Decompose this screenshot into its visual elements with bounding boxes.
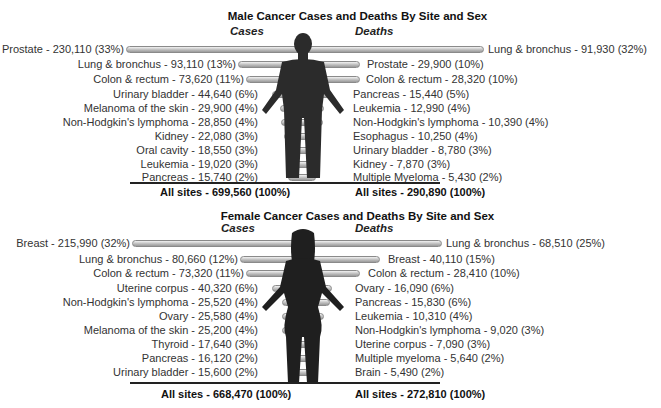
female-death-label: Multiple myeloma - 5,640 (2%) [355, 352, 504, 364]
male-case-label: Oral cavity - 18,550 (3%) [136, 144, 258, 156]
female-deaths-header: Deaths [355, 222, 393, 234]
male-panel: Male Cancer Cases and Deaths By Site and… [0, 0, 661, 200]
female-case-label: Lung & bronchus - 80,660 (12%) [79, 253, 238, 265]
male-deaths-total: All sites - 290,890 (100%) [355, 186, 485, 198]
female-cases-header: Cases [221, 222, 255, 234]
female-case-label: Thyroid - 17,640 (3%) [152, 338, 258, 350]
male-silhouette-icon [258, 30, 348, 180]
female-case-label: Pancreas - 16,120 (2%) [142, 352, 258, 364]
female-case-label: Colon & rectum - 73,320 (11%) [93, 267, 244, 279]
male-case-label: Lung & bronchus - 93,110 (13%) [78, 58, 236, 70]
female-deaths-total: All sites - 272,810 (100%) [355, 388, 485, 400]
female-death-label: Leukemia - 10,310 (4%) [355, 310, 472, 322]
male-death-label: Kidney - 7,870 (3%) [353, 158, 450, 170]
female-case-label: Ovary - 25,580 (4%) [159, 310, 258, 322]
male-death-label: Esophagus - 10,250 (4%) [353, 130, 478, 142]
male-case-label: Prostate - 230,110 (33%) [2, 43, 124, 55]
female-death-label: Breast - 40,110 (15%) [388, 253, 495, 265]
female-death-label: Pancreas - 15,830 (6%) [355, 296, 471, 308]
male-death-label: Non-Hodgkin's lymphoma - 10,390 (4%) [353, 116, 548, 128]
female-case-label: Urinary bladder - 15,600 (2%) [113, 366, 258, 378]
male-death-label: Colon & rectum - 28,320 (10%) [366, 73, 518, 85]
male-death-label: Urinary bladder - 8,780 (3%) [353, 144, 492, 156]
male-case-label: Colon & rectum - 73,620 (11%) [93, 73, 244, 85]
male-death-label: Leukemia - 12,990 (4%) [353, 102, 470, 114]
male-case-label: Leukemia - 19,020 (3%) [141, 158, 258, 170]
male-case-label: Kidney - 22,080 (3%) [155, 130, 258, 142]
male-death-label: Lung & bronchus - 91,930 (32%) [488, 43, 647, 55]
female-case-label: Non-Hodgkin's lymphoma - 25,520 (4%) [63, 296, 258, 308]
female-chart-title: Female Cancer Cases and Deaths By Site a… [27, 210, 661, 222]
male-case-label: Non-Hodgkin's lymphoma - 28,850 (4%) [63, 116, 258, 128]
female-death-label: Ovary - 16,090 (6%) [355, 282, 454, 294]
male-death-label: Prostate - 29,900 (10%) [367, 58, 484, 70]
female-baseline [130, 382, 440, 384]
female-cases-total: All sites - 668,470 (100%) [161, 388, 291, 400]
male-case-label: Melanoma of the skin - 29,900 (4%) [84, 102, 258, 114]
male-chart-title: Male Cancer Cases and Deaths By Site and… [27, 10, 661, 22]
female-death-label: Uterine corpus - 7,090 (3%) [355, 338, 490, 350]
male-death-label: Pancreas - 15,440 (5%) [353, 88, 469, 100]
female-case-label: Melanoma of the skin - 25,200 (4%) [84, 324, 258, 336]
male-baseline [130, 182, 440, 184]
female-death-label: Brain - 5,490 (2%) [355, 366, 444, 378]
female-case-label: Uterine corpus - 40,320 (6%) [117, 282, 258, 294]
female-death-label: Colon & rectum - 28,410 (10%) [368, 267, 520, 279]
female-panel: Female Cancer Cases and Deaths By Site a… [0, 200, 661, 408]
female-silhouette-icon [258, 227, 348, 385]
female-case-label: Breast - 215,990 (32%) [16, 237, 130, 249]
female-death-label: Non-Hodgkin's lymphoma - 9,020 (3%) [355, 324, 544, 336]
male-deaths-header: Deaths [355, 25, 393, 37]
female-death-label: Lung & bronchus - 68,510 (25%) [446, 237, 605, 249]
male-case-label: Urinary bladder - 44,640 (6%) [113, 88, 258, 100]
male-cases-total: All sites - 699,560 (100%) [160, 186, 290, 198]
